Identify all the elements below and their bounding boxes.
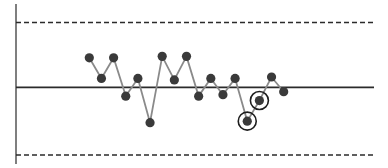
data-point [279,87,288,96]
data-point [85,53,94,62]
data-point [158,52,167,61]
data-point [231,74,240,83]
data-point [133,74,142,83]
data-point [206,74,215,83]
data-point [109,53,118,62]
data-point [121,92,130,101]
data-point [182,52,191,61]
data-point [97,74,106,83]
data-point [145,118,154,127]
data-point [218,90,227,99]
data-point [255,96,264,105]
data-point [267,72,276,81]
control-chart [0,0,388,168]
data-point [243,117,252,126]
series-line [89,56,283,122]
data-point [194,92,203,101]
data-point [170,75,179,84]
